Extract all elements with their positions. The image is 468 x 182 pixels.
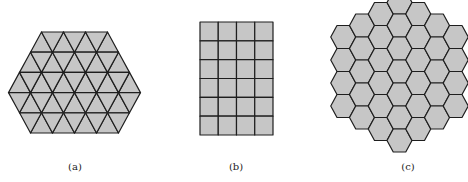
triangular-tiling-panel bbox=[9, 32, 141, 133]
square-cell bbox=[237, 78, 255, 97]
square-cell bbox=[237, 116, 255, 135]
hexagon-cell bbox=[443, 49, 468, 72]
square-cell bbox=[200, 116, 218, 135]
square-cell bbox=[200, 41, 218, 60]
square-cell bbox=[255, 78, 273, 97]
hexagon-cell bbox=[443, 72, 468, 95]
square-cell bbox=[218, 41, 236, 60]
square-cell bbox=[255, 60, 273, 79]
square-cell bbox=[237, 41, 255, 60]
hexagon-cell bbox=[443, 26, 468, 49]
square-cell bbox=[218, 97, 236, 116]
square-cell bbox=[200, 60, 218, 79]
hexagon-cell bbox=[443, 95, 468, 118]
square-cell bbox=[200, 78, 218, 97]
square-cell bbox=[255, 41, 273, 60]
square-cell bbox=[255, 97, 273, 116]
square-cell bbox=[218, 60, 236, 79]
square-cell bbox=[237, 97, 255, 116]
square-cell bbox=[200, 97, 218, 116]
panel-a-caption: (a) bbox=[68, 161, 82, 172]
square-cell bbox=[255, 22, 273, 41]
square-cell bbox=[200, 22, 218, 41]
square-cell bbox=[237, 22, 255, 41]
hexagonal-tiling-panel bbox=[331, 0, 468, 152]
tiling-figure bbox=[0, 0, 468, 182]
panel-b-caption: (b) bbox=[229, 161, 243, 172]
square-cell bbox=[237, 60, 255, 79]
square-tiling-panel bbox=[200, 22, 273, 135]
square-cell bbox=[218, 116, 236, 135]
square-cell bbox=[255, 116, 273, 135]
square-cell bbox=[218, 78, 236, 97]
panel-c-caption: (c) bbox=[401, 161, 414, 172]
square-cell bbox=[218, 22, 236, 41]
